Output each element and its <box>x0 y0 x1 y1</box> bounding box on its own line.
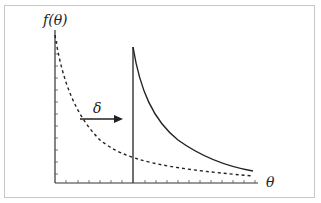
arrow-head-icon <box>114 115 123 123</box>
solid-shifted-curve <box>133 47 253 171</box>
dashed-density-curve <box>55 35 253 176</box>
x-axis-label: θ <box>266 174 275 190</box>
y-axis-label: f(θ) <box>42 12 68 28</box>
density-shift-diagram: f(θ) δ θ <box>0 0 321 203</box>
shift-label: δ <box>93 100 101 116</box>
